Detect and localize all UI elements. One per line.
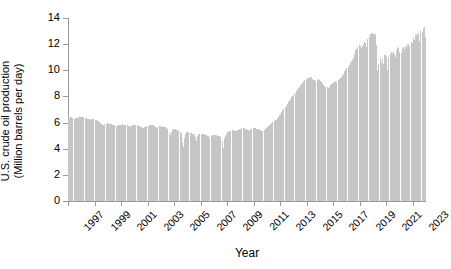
y-tick-label: 4 [36, 143, 60, 154]
y-tick-label: 10 [36, 64, 60, 75]
x-tick-label: 2009 [240, 208, 265, 233]
x-tick-mark [386, 201, 387, 206]
x-tick-label: 2003 [160, 208, 185, 233]
y-axis-title: U.S. crude oil production (Million barre… [0, 21, 25, 221]
x-tick-mark [174, 201, 175, 206]
x-tick-mark [95, 201, 96, 206]
y-tick-label: 8 [36, 90, 60, 101]
x-tick-label: 2001 [134, 208, 159, 233]
y-tick-label: 0 [36, 195, 60, 206]
plot-area [68, 18, 426, 201]
y-tick-mark [63, 96, 68, 97]
y-tick-label: 12 [36, 38, 60, 49]
y-tick-mark [63, 70, 68, 71]
x-tick-mark [121, 201, 122, 206]
x-tick-mark [333, 201, 334, 206]
bars-layer [68, 18, 426, 201]
x-tick-label: 1997 [81, 208, 106, 233]
x-tick-mark [280, 201, 281, 206]
x-tick-label: 2015 [319, 208, 344, 233]
y-tick-mark [63, 149, 68, 150]
y-tick-mark [63, 44, 68, 45]
x-tick-mark [307, 201, 308, 206]
bar [425, 37, 426, 201]
y-tick-mark [63, 175, 68, 176]
y-tick-mark [63, 18, 68, 19]
x-tick-label: 2013 [293, 208, 318, 233]
x-tick-mark [360, 201, 361, 206]
x-axis-title: Year [68, 246, 426, 260]
x-tick-mark [68, 201, 69, 206]
x-tick-mark [148, 201, 149, 206]
y-tick-label: 6 [36, 117, 60, 128]
x-tick-mark [201, 201, 202, 206]
x-tick-label: 2023 [426, 208, 451, 233]
x-tick-mark [413, 201, 414, 206]
x-tick-label: 2007 [213, 208, 238, 233]
y-tick-mark [63, 123, 68, 124]
x-tick-label: 1999 [107, 208, 132, 233]
y-tick-label: 2 [36, 169, 60, 180]
x-tick-label: 2019 [373, 208, 398, 233]
y-axis-title-line2: (Million barrels per day) [12, 21, 25, 221]
x-tick-label: 2005 [187, 208, 212, 233]
y-axis-title-line1: U.S. crude oil production [0, 21, 12, 221]
x-tick-label: 2021 [399, 208, 424, 233]
x-tick-label: 2017 [346, 208, 371, 233]
x-tick-label: 2011 [266, 208, 290, 232]
y-tick-label: 14 [36, 12, 60, 23]
x-tick-mark [254, 201, 255, 206]
x-tick-mark [227, 201, 228, 206]
